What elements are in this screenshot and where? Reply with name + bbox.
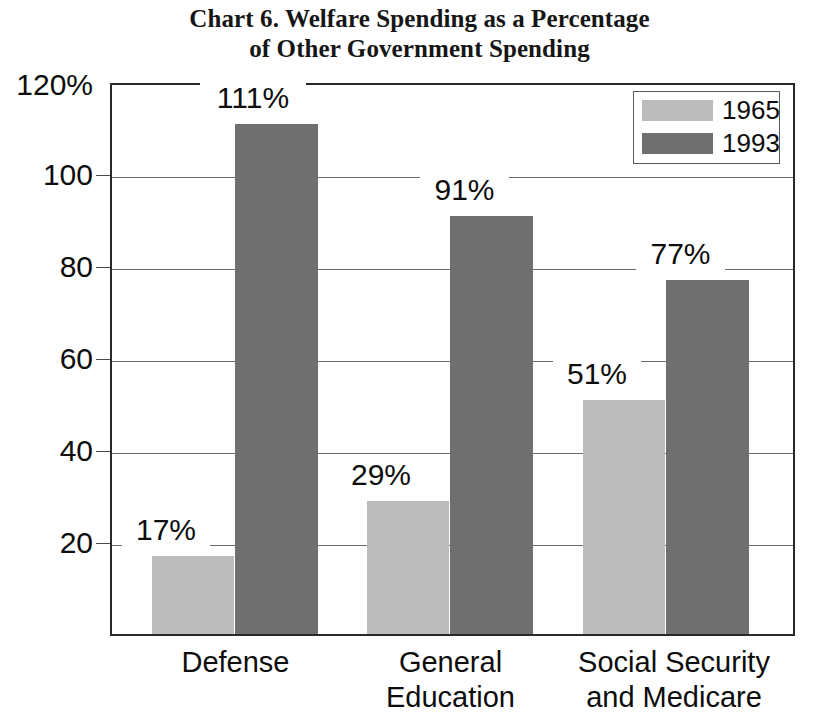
y-tick-label-40: 40	[0, 436, 93, 466]
y-tick-label-60: 60	[0, 344, 93, 374]
chart-title-line-1: Chart 6. Welfare Spending as a Percentag…	[0, 4, 839, 34]
bars-layer	[110, 83, 795, 636]
legend: 1965 1993	[633, 91, 780, 164]
y-tick-label-20: 20	[0, 528, 93, 558]
x-category-label-defense: Defense	[128, 645, 343, 680]
y-tick-mark-40	[96, 451, 110, 452]
y-tick-label-120: 120%	[0, 70, 93, 100]
bar-value-general-education-1965: 29%	[337, 459, 425, 491]
legend-label-1993: 1993	[722, 129, 780, 157]
y-tick-label-100: 100	[0, 160, 93, 190]
legend-swatch-1965	[642, 100, 713, 121]
bar-social-security-1965[interactable]	[583, 400, 665, 634]
chart-title-line-2: of Other Government Spending	[0, 34, 839, 64]
bar-social-security-1993[interactable]	[666, 280, 749, 634]
y-tick-mark-80	[96, 267, 110, 268]
y-tick-mark-100	[96, 175, 110, 176]
bar-value-defense-1965: 17%	[122, 514, 210, 546]
chart-container: Chart 6. Welfare Spending as a Percentag…	[0, 0, 839, 714]
bar-value-defense-1993: 111%	[200, 82, 306, 114]
bar-general-education-1965[interactable]	[367, 501, 449, 634]
bar-general-education-1993[interactable]	[450, 216, 533, 634]
bar-defense-1965[interactable]	[152, 556, 234, 634]
y-tick-mark-60	[96, 359, 110, 360]
bar-defense-1993[interactable]	[235, 124, 318, 634]
x-category-label-general-education: General Education	[343, 645, 558, 714]
bar-value-social-security-1965: 51%	[553, 358, 641, 390]
chart-title: Chart 6. Welfare Spending as a Percentag…	[0, 4, 839, 64]
legend-label-1965: 1965	[722, 96, 780, 124]
y-tick-label-80: 80	[0, 252, 93, 282]
x-category-label-social-security: Social Security and Medicare	[550, 645, 798, 714]
bar-value-social-security-1993: 77%	[636, 238, 725, 270]
y-tick-mark-20	[96, 543, 110, 544]
legend-swatch-1993	[642, 133, 713, 154]
bar-value-general-education-1993: 91%	[420, 174, 509, 206]
